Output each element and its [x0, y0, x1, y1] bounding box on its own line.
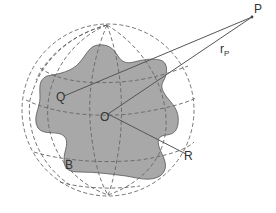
label-p: P: [254, 2, 262, 16]
label-q: Q: [56, 90, 65, 104]
label-r: R: [184, 149, 193, 163]
point-p: [251, 16, 254, 19]
label-b: B: [65, 158, 73, 172]
label-rp: rP: [220, 42, 229, 58]
gravitational-body-diagram: P rP Q O R B: [0, 0, 276, 213]
label-o: O: [100, 110, 109, 124]
